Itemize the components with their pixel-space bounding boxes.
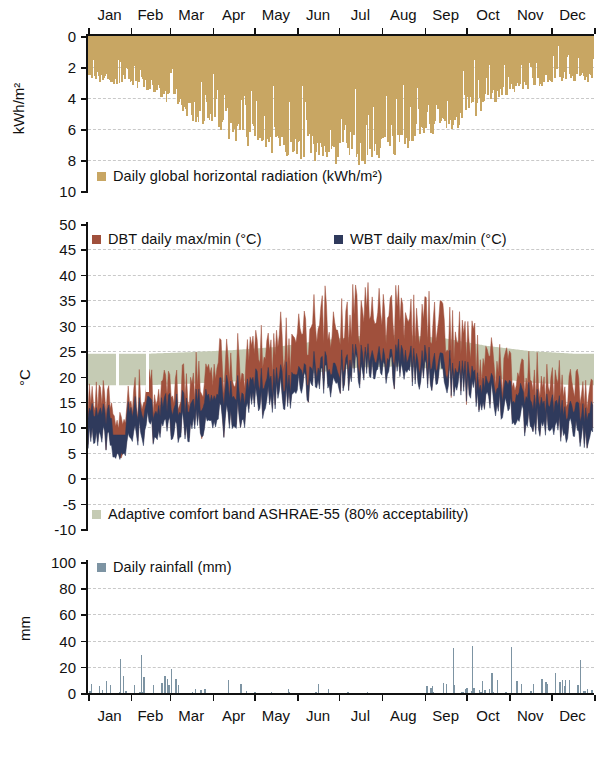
month-label-oct: Oct	[476, 707, 499, 724]
rainfall-daily-bar	[228, 680, 229, 693]
radiation-x-axis-line	[86, 34, 594, 36]
gridline	[88, 667, 594, 668]
legend-item: Daily rainfall (mm)	[97, 559, 232, 575]
rainfall-daily-bar	[161, 683, 162, 693]
x-axis-tick	[339, 695, 341, 701]
y-axis-label: 45	[59, 242, 76, 257]
legend-label: Daily global horizontal radiation (kWh/m…	[113, 168, 382, 184]
rainfall-daily-bar	[164, 676, 165, 693]
x-axis-tick	[131, 28, 133, 34]
month-label-may: May	[262, 6, 290, 23]
rainfall-daily-bar	[178, 685, 179, 693]
x-axis-tick	[594, 28, 596, 34]
rainfall-daily-bar	[569, 680, 570, 693]
y-axis-label: 60	[59, 607, 76, 622]
y-axis-tick	[81, 191, 87, 193]
rainfall-daily-bar	[110, 685, 111, 693]
rainfall-legend: Daily rainfall (mm)	[97, 559, 258, 575]
rainfall-daily-bar	[516, 681, 517, 693]
y-axis-label: 10	[59, 420, 76, 435]
rainfall-daily-bar	[559, 682, 560, 693]
rainfall-daily-bar	[123, 676, 124, 693]
panel-daily-global-horizontal-radiation: 0246810 kWh/m² Daily global horizontal r…	[0, 0, 594, 200]
rainfall-y-axis-title: mm	[16, 609, 33, 649]
legend-label: WBT daily max/min (°C)	[350, 231, 507, 247]
legend-label: DBT daily max/min (°C)	[108, 231, 262, 247]
rainfall-daily-bar	[120, 659, 121, 693]
legend-item: Adaptive comfort band ASHRAE-55 (80% acc…	[92, 506, 469, 522]
comfort-band-step-gap	[116, 331, 119, 392]
x-axis-tick	[213, 695, 215, 701]
y-axis-tick	[81, 453, 87, 455]
y-axis-tick	[81, 504, 87, 506]
rainfall-daily-bar	[141, 655, 142, 693]
month-label-jun: Jun	[306, 6, 330, 23]
rainfall-daily-bar	[482, 681, 483, 693]
y-axis-label: 40	[59, 267, 76, 282]
month-label-oct: Oct	[476, 6, 499, 23]
y-axis-label: 100	[51, 555, 76, 570]
y-axis-label: 6	[68, 122, 76, 137]
x-axis-tick	[339, 28, 341, 34]
legend-label: Adaptive comfort band ASHRAE-55 (80% acc…	[108, 506, 469, 522]
rainfall-daily-bar	[577, 685, 578, 693]
rainfall-daily-bar	[443, 683, 444, 693]
y-axis-label: 10	[59, 184, 76, 199]
x-axis-tick	[88, 695, 90, 701]
rainfall-daily-bar	[171, 669, 172, 693]
rainfall-daily-bar	[580, 660, 581, 693]
x-axis-tick	[551, 28, 553, 34]
rainfall-daily-bar	[547, 684, 548, 693]
y-axis-label: 4	[68, 91, 76, 106]
y-axis-label: 40	[59, 633, 76, 648]
y-axis-tick	[81, 427, 87, 429]
gridline	[88, 641, 594, 642]
x-axis-tick	[551, 695, 553, 701]
month-label-may: May	[262, 707, 290, 724]
y-axis-tick	[81, 588, 87, 590]
x-axis-tick	[170, 695, 172, 701]
x-axis-tick	[254, 28, 256, 34]
y-axis-tick	[81, 641, 87, 643]
x-axis-tick	[254, 695, 256, 701]
rainfall-daily-bar	[106, 681, 107, 693]
y-axis-tick	[81, 98, 87, 100]
y-axis-label: 2	[68, 60, 76, 75]
rainfall-daily-bar	[175, 679, 176, 693]
rainfall-daily-bar	[491, 673, 492, 693]
rainfall-daily-bar	[565, 680, 566, 693]
y-axis-label: 50	[59, 217, 76, 232]
panel-dbt-wbt-temperature: 50454035302520151050-5-10 °C DBT daily m…	[0, 214, 594, 544]
y-axis-tick	[81, 36, 87, 38]
legend-swatch-icon	[92, 510, 101, 519]
temperature-legend-wbt: WBT daily max/min (°C)	[334, 231, 533, 247]
y-axis-label: 80	[59, 581, 76, 596]
x-axis-tick	[297, 695, 299, 701]
legend-swatch-icon	[334, 235, 343, 244]
x-axis-tick	[466, 28, 468, 34]
y-axis-label: 30	[59, 318, 76, 333]
radiation-legend: Daily global horizontal radiation (kWh/m…	[97, 168, 408, 184]
month-label-apr: Apr	[222, 707, 245, 724]
legend-label: Daily rainfall (mm)	[113, 559, 232, 575]
rainfall-daily-bar	[511, 647, 512, 693]
month-label-jul: Jul	[351, 707, 370, 724]
rainfall-daily-bar	[143, 677, 144, 693]
month-label-jun: Jun	[306, 707, 330, 724]
radiation-y-axis-line	[86, 34, 88, 193]
x-axis-tick	[170, 28, 172, 34]
x-axis-tick	[425, 695, 427, 701]
legend-item: DBT daily max/min (°C)	[92, 231, 262, 247]
legend-swatch-icon	[97, 172, 106, 181]
rainfall-daily-bar	[497, 680, 498, 693]
y-axis-tick	[81, 249, 87, 251]
y-axis-tick	[81, 667, 87, 669]
y-axis-tick	[81, 67, 87, 69]
month-label-aug: Aug	[390, 6, 417, 23]
month-label-feb: Feb	[137, 6, 163, 23]
x-axis-tick	[509, 28, 511, 34]
rainfall-daily-bar	[168, 685, 169, 693]
y-axis-label: 8	[68, 153, 76, 168]
y-axis-tick	[81, 129, 87, 131]
